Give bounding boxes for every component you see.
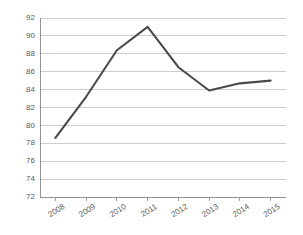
chart-background [0, 0, 303, 235]
y-axis-tick-label: 78 [26, 138, 35, 147]
chart-canvas: 7274767880828486889092 20082009201020112… [0, 0, 303, 235]
y-axis-tick-label: 72 [26, 192, 35, 201]
y-axis-tick-label: 82 [26, 103, 35, 112]
y-axis-tick-label: 90 [26, 31, 35, 40]
y-axis-tick-label: 84 [26, 85, 35, 94]
y-axis-tick-label: 74 [26, 174, 35, 183]
y-axis-tick-label: 88 [26, 49, 35, 58]
y-axis-tick-label: 86 [26, 67, 35, 76]
y-axis-tick-label: 80 [26, 121, 35, 130]
y-axis-tick-label: 92 [26, 13, 35, 22]
line-chart: 7274767880828486889092 20082009201020112… [0, 0, 303, 235]
y-axis-tick-label: 76 [26, 156, 35, 165]
